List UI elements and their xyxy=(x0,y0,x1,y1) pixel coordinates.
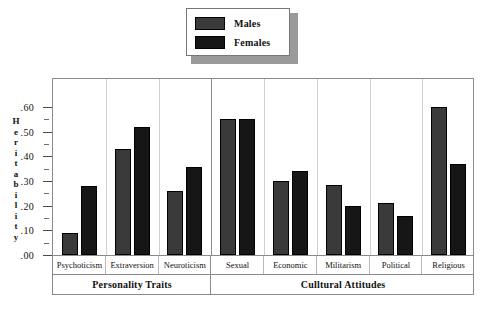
cell-separator xyxy=(370,79,371,255)
y-tick-minor xyxy=(44,119,49,120)
y-tick-label: .20 xyxy=(8,200,34,211)
y-tick-label: .10 xyxy=(8,225,34,236)
x-label-political: Political xyxy=(370,256,423,274)
bar-females-extraversion xyxy=(134,127,150,255)
cell-separator xyxy=(422,79,423,255)
legend-label-males: Males xyxy=(234,18,261,29)
cell-separator xyxy=(264,79,265,255)
plot-area xyxy=(52,78,474,255)
y-tick-major xyxy=(43,132,52,133)
bar-males-political xyxy=(378,203,394,255)
y-tick-minor xyxy=(44,169,49,170)
cell-separator xyxy=(317,79,318,255)
bar-females-neuroticism xyxy=(186,167,202,255)
bar-females-political xyxy=(397,216,413,255)
bar-males-economic xyxy=(273,181,289,255)
legend-item-males: Males xyxy=(195,14,289,33)
x-label-sexual: Sexual xyxy=(211,256,264,274)
x-label-extraversion: Extraversion xyxy=(106,256,159,274)
x-label-economic: Economic xyxy=(264,256,317,274)
y-tick-major xyxy=(43,255,52,256)
y-tick-major xyxy=(43,107,52,108)
y-tick-minor xyxy=(44,144,49,145)
y-tick-label: .00 xyxy=(8,250,34,261)
bar-females-psychoticism xyxy=(81,186,97,255)
x-section-1: Culltural Attitudes xyxy=(211,275,475,294)
y-tick-label: .40 xyxy=(8,151,34,162)
legend-swatch-females xyxy=(195,36,225,49)
cell-separator xyxy=(211,79,212,255)
y-tick-label: .60 xyxy=(8,102,34,113)
y-tick-minor xyxy=(44,243,49,244)
legend: Males Females xyxy=(186,8,298,64)
x-label-militarism: Militarism xyxy=(317,256,370,274)
legend-swatch-males xyxy=(195,17,225,30)
bar-males-religious xyxy=(431,107,447,255)
y-tick-label: .50 xyxy=(8,126,34,137)
bar-females-sexual xyxy=(239,119,255,255)
y-axis-labels: .00.10.20.30.40.50.60 xyxy=(8,78,34,256)
bar-males-neuroticism xyxy=(167,191,183,255)
x-section-0: Personality Traits xyxy=(53,275,211,294)
y-tick-major xyxy=(43,156,52,157)
x-label-neuroticism: Neuroticism xyxy=(159,256,212,274)
bar-females-religious xyxy=(450,164,466,255)
y-tick-major xyxy=(43,230,52,231)
x-label-religious: Religious xyxy=(422,256,475,274)
x-label-psychoticism: Psychoticism xyxy=(53,256,106,274)
cell-separator xyxy=(159,79,160,255)
cell-separator xyxy=(106,79,107,255)
y-tick-label: .30 xyxy=(8,176,34,187)
bar-males-extraversion xyxy=(115,149,131,255)
y-tick-major xyxy=(43,206,52,207)
y-tick-minor xyxy=(44,218,49,219)
bar-males-militarism xyxy=(326,185,342,255)
x-axis-category-labels: PsychoticismExtraversionNeuroticismSexua… xyxy=(52,255,474,275)
legend-label-females: Females xyxy=(234,37,270,48)
bar-males-psychoticism xyxy=(62,233,78,255)
bar-females-economic xyxy=(292,171,308,255)
bar-females-militarism xyxy=(345,206,361,255)
legend-box: Males Females xyxy=(186,8,290,56)
legend-item-females: Females xyxy=(195,33,289,52)
y-tick-minor xyxy=(44,193,49,194)
bar-males-sexual xyxy=(220,119,236,255)
y-tick-major xyxy=(43,181,52,182)
x-axis-section-labels: Personality TraitsCulltural Attitudes xyxy=(52,275,474,295)
y-axis-ticks xyxy=(44,78,52,256)
